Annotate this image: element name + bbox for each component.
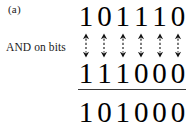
- operand-1-bit: 1: [77, 2, 95, 31]
- binary-operation-stack: 1 0 1 1 1 0: [77, 0, 187, 135]
- operand-row-second: 1 1 1 0 0 0: [77, 59, 187, 88]
- operand-2-bit: 1: [95, 59, 113, 88]
- double-headed-dashed-vertical-arrow-icon: [132, 33, 150, 58]
- operand-2-bit: 1: [77, 59, 95, 88]
- operand-1-bit: 1: [114, 2, 132, 31]
- result-bit: 0: [95, 98, 113, 127]
- result-bit: 1: [114, 98, 132, 127]
- result-bit: 1: [77, 98, 95, 127]
- operand-1-bit: 0: [169, 2, 187, 31]
- double-headed-dashed-vertical-arrow-icon: [95, 33, 113, 58]
- panel-label: (a): [8, 3, 21, 16]
- operation-label: AND on bits: [6, 40, 66, 54]
- double-headed-dashed-vertical-arrow-icon: [77, 33, 95, 58]
- operand-2-bit: 0: [169, 59, 187, 88]
- operand-2-bit: 1: [114, 59, 132, 88]
- operand-2-bit: 0: [151, 59, 169, 88]
- double-headed-dashed-vertical-arrow-icon: [169, 33, 187, 58]
- operand-1-bit: 0: [95, 2, 113, 31]
- result-bit: 0: [132, 98, 150, 127]
- result-bit: 0: [169, 98, 187, 127]
- result-row: 1 0 1 0 0 0: [77, 98, 187, 127]
- operand-1-bit: 1: [132, 2, 150, 31]
- result-separator-rule: [78, 89, 186, 90]
- operand-row-first: 1 0 1 1 1 0: [77, 2, 187, 31]
- double-headed-dashed-vertical-arrow-icon: [151, 33, 169, 58]
- result-bit: 0: [151, 98, 169, 127]
- operand-2-bit: 0: [132, 59, 150, 88]
- bitwise-and-figure: (a) AND on bits 1 0 1 1 1 0: [0, 0, 188, 135]
- operand-1-bit: 1: [151, 2, 169, 31]
- bit-correspondence-arrows: [77, 33, 187, 58]
- double-headed-dashed-vertical-arrow-icon: [114, 33, 132, 58]
